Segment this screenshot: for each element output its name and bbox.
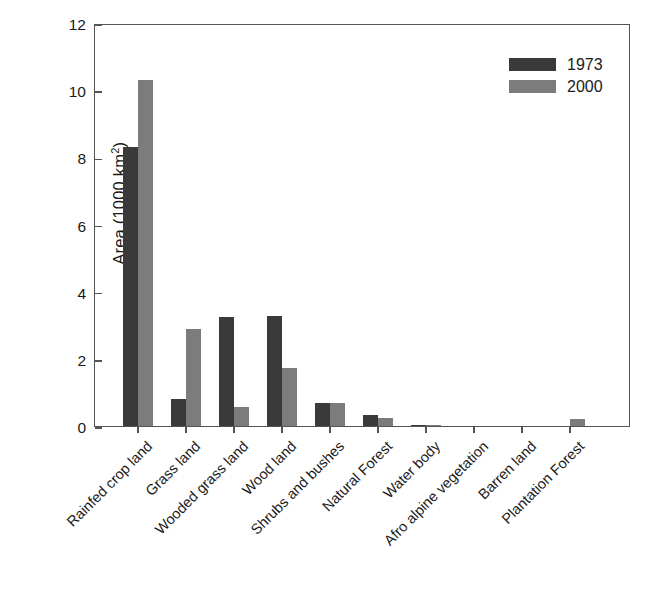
bar	[123, 147, 138, 426]
x-axis-tick-mark	[137, 426, 138, 433]
bar	[138, 80, 153, 426]
legend-swatch-icon	[509, 80, 556, 93]
bar	[378, 418, 393, 426]
legend-entry: 1973	[509, 55, 603, 74]
x-axis-tick-mark	[521, 426, 522, 433]
y-axis-tick-mark	[95, 293, 102, 294]
y-axis-tick-mark	[95, 24, 102, 25]
bar	[171, 399, 186, 426]
y-axis-tick-mark	[95, 427, 102, 428]
x-axis-tick-mark	[473, 426, 474, 433]
x-axis-tick-mark	[233, 426, 234, 433]
y-axis-tick-mark	[95, 226, 102, 227]
y-axis-tick-label: 2	[77, 351, 86, 371]
x-axis-tick-mark	[425, 426, 426, 433]
legend-swatch-icon	[509, 58, 556, 71]
bar	[330, 403, 345, 427]
bar	[363, 415, 378, 426]
legend-entry-label: 1973	[567, 55, 603, 74]
y-axis-tick-label: 10	[69, 82, 86, 102]
y-axis-tick-label: 12	[69, 15, 86, 35]
bar	[186, 329, 201, 426]
y-axis-tick-mark	[95, 159, 102, 160]
legend-entry: 2000	[509, 77, 603, 96]
x-axis-tick-mark	[185, 426, 186, 433]
bar	[282, 368, 297, 426]
bar	[234, 407, 249, 426]
x-axis-tick-mark	[329, 426, 330, 433]
y-axis-tick-mark	[95, 91, 102, 92]
y-axis-tick-label: 4	[77, 284, 86, 304]
legend: 1973 2000	[509, 55, 603, 99]
x-axis-tick-mark	[281, 426, 282, 433]
y-axis-title-exponent: 2	[109, 148, 121, 154]
bar	[411, 425, 426, 426]
x-axis-tick-mark	[377, 426, 378, 433]
y-axis-tick-label: 8	[77, 149, 86, 169]
bar	[219, 317, 234, 426]
bar	[267, 316, 282, 426]
y-axis-tick-label: 6	[77, 217, 86, 237]
x-axis-tick-mark	[569, 426, 570, 433]
y-axis-tick-mark	[95, 360, 102, 361]
plot-area: Area (1000 km2) 024681012 Rainfed crop l…	[94, 24, 630, 427]
bar-chart: Area (1000 km2) 024681012 Rainfed crop l…	[0, 0, 656, 589]
legend-entry-label: 2000	[567, 77, 603, 96]
y-axis-tick-label: 0	[77, 418, 86, 438]
bar	[570, 419, 585, 426]
bar	[426, 425, 441, 426]
bar	[315, 403, 330, 427]
